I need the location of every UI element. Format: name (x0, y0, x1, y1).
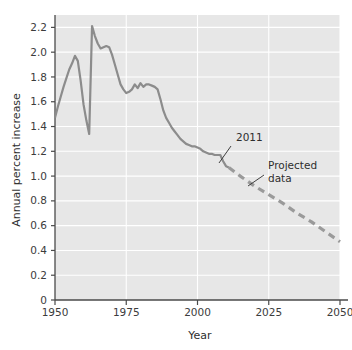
x-axis-tick-label: 2025 (255, 306, 282, 318)
chart-figure: 19501975200020252050 00.20.40.60.81.01.2… (0, 0, 352, 350)
y-axis-tick-label: 0.6 (30, 219, 47, 231)
y-axis-tick-label: 1.8 (30, 71, 47, 83)
y-axis-tick-label: 2.2 (30, 21, 47, 33)
y-axis-tick-label: 2.0 (30, 46, 47, 58)
annotation-label: data (268, 172, 292, 184)
y-axis-tick-label: 0.2 (30, 269, 47, 281)
annotation-label: Projected (268, 159, 317, 171)
x-axis-tick-label: 1950 (42, 306, 69, 318)
y-axis-tick-label: 0.4 (30, 244, 47, 256)
x-axis-title: Year (187, 329, 212, 342)
x-axis-tick-label: 2000 (184, 306, 211, 318)
y-axis-tick-label: 1.6 (30, 95, 47, 107)
y-axis-tick-label: 1.2 (30, 145, 47, 157)
x-axis-tick-label: 1975 (113, 306, 140, 318)
y-axis-tick-label: 1.0 (30, 170, 47, 182)
y-axis-tick-label: 0 (40, 294, 47, 306)
annotation-label: 2011 (236, 131, 263, 143)
line-chart: 19501975200020252050 00.20.40.60.81.01.2… (0, 0, 352, 350)
x-axis-tick-label: 2050 (327, 306, 352, 318)
y-axis-title: Annual percent increase (10, 93, 23, 227)
y-axis-tick-label: 1.4 (30, 120, 47, 132)
y-axis-tick-label: 0.8 (30, 194, 47, 206)
